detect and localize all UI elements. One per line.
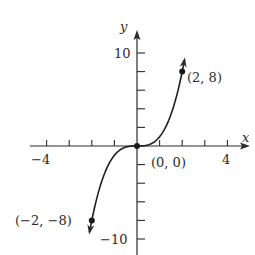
data-point-dot [89,217,95,223]
data-point-dot [179,69,185,75]
y-max-tick-label: 10 [114,46,131,61]
point-label-2-8: (2, 8) [187,70,222,85]
x-axis-label: x [242,130,250,145]
data-point-dot [134,143,140,149]
y-min-tick-label: −10 [100,232,127,247]
x-min-tick-label: −4 [31,152,50,167]
point-label-neg2-neg8: (−2, −8) [15,213,72,228]
y-axis-label: y [119,19,128,34]
x-max-tick-label: 4 [222,152,230,167]
cubic-function-graph: y x −4 4 10 −10 (2, 8) (0, 0) (−2, −8) [0,0,255,255]
point-label-origin: (0, 0) [151,155,186,170]
